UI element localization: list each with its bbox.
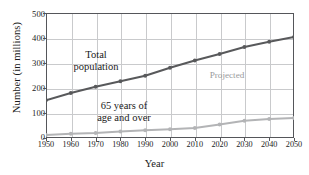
data-point bbox=[168, 127, 172, 131]
data-point bbox=[243, 119, 247, 123]
data-point bbox=[243, 45, 247, 49]
annotation-total-line2: population bbox=[58, 61, 134, 73]
data-point bbox=[193, 59, 197, 63]
data-point bbox=[267, 117, 271, 121]
x-tick-label-2050: 2050 bbox=[274, 140, 309, 149]
y-tick-label-300: 300 bbox=[15, 58, 45, 68]
data-point bbox=[143, 74, 147, 78]
data-point bbox=[119, 79, 123, 83]
y-tick-label-200: 200 bbox=[15, 83, 45, 93]
data-point bbox=[267, 40, 271, 44]
x-axis-title: Year bbox=[0, 158, 309, 169]
y-tick-label-500: 500 bbox=[15, 9, 45, 19]
annotation-projected: Projected bbox=[196, 70, 258, 81]
data-point bbox=[292, 35, 294, 39]
data-point bbox=[143, 128, 147, 132]
annotation-total-population: Total population bbox=[58, 49, 134, 73]
data-point bbox=[94, 131, 98, 135]
data-point bbox=[193, 126, 197, 130]
annotation-age65-line1: 65 years of bbox=[78, 100, 170, 112]
annotation-total-line1: Total bbox=[58, 49, 134, 61]
data-point bbox=[168, 66, 172, 70]
y-tick-label-100: 100 bbox=[15, 108, 45, 118]
y-tick-label-400: 400 bbox=[15, 33, 45, 43]
annotation-age65-line2: age and over bbox=[78, 112, 170, 124]
data-point bbox=[218, 123, 222, 127]
data-point bbox=[292, 116, 294, 120]
data-point bbox=[218, 52, 222, 56]
data-point bbox=[119, 130, 123, 134]
data-point bbox=[69, 91, 73, 95]
data-point bbox=[69, 132, 73, 136]
annotation-age-65: 65 years of age and over bbox=[78, 100, 170, 124]
data-point bbox=[46, 133, 48, 137]
population-line-chart: Number (in millions) 500 400 300 200 100… bbox=[0, 0, 309, 175]
data-point bbox=[94, 85, 98, 89]
